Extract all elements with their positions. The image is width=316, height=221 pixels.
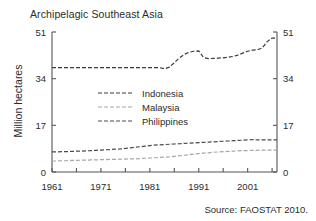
legend-group: IndonesiaMalaysiaPhilippines [98,88,188,127]
y-tick-label-right: 51 [283,27,294,38]
x-tick-label: 2001 [237,181,258,192]
legend-label-philippines: Philippines [142,116,188,127]
y-tick-label-left: 0 [41,167,46,178]
chart-figure: Archipelagic Southeast Asia Million hect… [0,0,316,221]
series-line-malaysia [52,150,277,161]
x-tick-label: 1961 [41,181,62,192]
x-tick-label: 1991 [188,181,209,192]
x-tick-label: 1981 [139,181,160,192]
source-note: Source: FAOSTAT 2010. [205,204,309,215]
legend-label-indonesia: Indonesia [142,88,184,99]
y-tick-label-right: 34 [283,73,294,84]
y-tick-label-right: 0 [283,167,288,178]
legend-label-malaysia: Malaysia [142,102,180,113]
series-line-philippines [52,140,277,152]
y-tick-label-right: 17 [283,120,294,131]
series-line-indonesia [52,38,277,69]
y-tick-label-left: 34 [35,73,46,84]
plot-area: 0173451017345119611971198119912001 Indon… [0,0,316,221]
x-tick-label: 1971 [90,181,111,192]
y-tick-label-left: 51 [35,27,46,38]
y-tick-label-left: 17 [35,120,46,131]
series-group [52,38,277,161]
